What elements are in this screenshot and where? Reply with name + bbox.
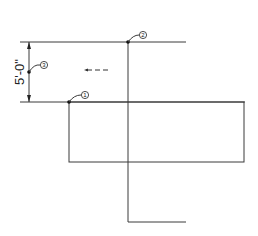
dimension-text: 5'-0": [12, 59, 27, 85]
rectangle-outline: [69, 102, 244, 162]
dimension-arrow-down-icon: [27, 95, 31, 102]
point-3: 3: [27, 61, 47, 73]
technical-drawing: 5'-0" 3 1 2: [0, 0, 258, 236]
arrow-left-dashed-icon: [84, 69, 108, 72]
dimension-arrow-up-icon: [27, 42, 31, 49]
